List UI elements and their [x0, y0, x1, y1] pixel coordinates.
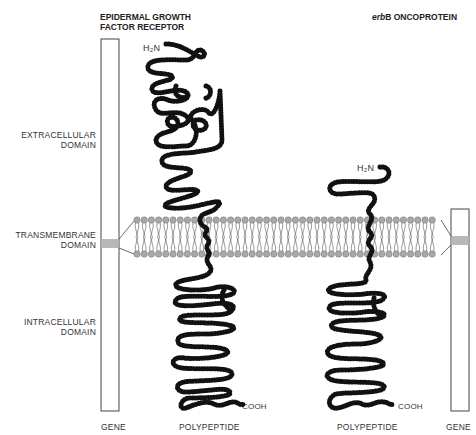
gene-left	[101, 39, 134, 411]
gene-left-transmembrane-band	[102, 239, 119, 248]
egfr-polypeptide-chain	[148, 44, 244, 408]
gene-right-transmembrane-band	[452, 236, 469, 245]
diagram-canvas	[0, 0, 476, 435]
gene-right	[441, 209, 469, 411]
lipid-bilayer-membrane	[134, 217, 436, 257]
erbb-polypeptide-chain	[327, 167, 394, 408]
